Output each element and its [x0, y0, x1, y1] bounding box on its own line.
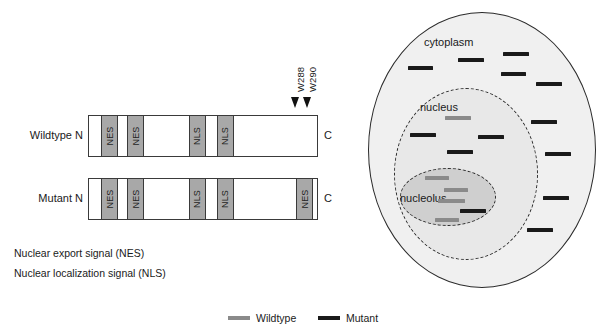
protein-marker-mutant: [478, 135, 504, 139]
n-terminus-label: N: [75, 192, 83, 204]
domain-label: NES: [105, 189, 115, 208]
protein-marker-mutant: [531, 120, 557, 124]
protein-marker-mutant: [458, 58, 484, 62]
residue-arrowhead-icon: [291, 97, 299, 108]
domain-block-nes: NES: [127, 116, 144, 156]
c-terminus-label: C: [324, 192, 332, 204]
domain-block-nes: NES: [101, 179, 118, 219]
cytoplasm-label: cytoplasm: [424, 36, 474, 48]
protein-marker-wildtype: [425, 176, 449, 180]
legend-label: Mutant: [346, 312, 378, 324]
key-line: Nuclear localization signal (NLS): [14, 267, 166, 279]
legend-label: Wildtype: [256, 312, 296, 324]
legend-item: Mutant: [318, 308, 378, 326]
domain-label: NES: [131, 126, 141, 145]
domain-block-nes: NES: [296, 179, 313, 219]
residue-label: W288: [295, 67, 306, 92]
domain-block-nls: NLS: [189, 179, 206, 219]
protein-marker-mutant: [501, 72, 526, 76]
residue-arrowhead-icon: [303, 97, 311, 108]
key-line: Nuclear export signal (NES): [14, 247, 166, 259]
legend-swatch-mutant: [318, 316, 340, 320]
protein-marker-mutant: [503, 52, 529, 56]
protein-marker-wildtype: [445, 116, 471, 120]
domain-label: NES: [300, 189, 310, 208]
domain-label: NLS: [193, 190, 203, 208]
protein-row-label: Wildtype: [10, 129, 72, 141]
protein-marker-mutant: [447, 150, 473, 154]
protein-marker-mutant: [408, 66, 433, 70]
protein-marker-wildtype: [435, 218, 459, 222]
domain-block-nls: NLS: [217, 179, 234, 219]
nucleus-label: nucleus: [420, 101, 458, 113]
domain-label: NES: [105, 126, 115, 145]
protein-bar: NESNESNLSNLSNES: [88, 178, 318, 220]
protein-marker-mutant: [543, 196, 569, 200]
c-terminus-label: C: [324, 129, 332, 141]
protein-bar: NESNESNLSNLS: [88, 115, 318, 157]
domain-label: NLS: [221, 190, 231, 208]
signal-key: Nuclear export signal (NES) Nuclear loca…: [14, 247, 166, 279]
domain-block-nes: NES: [101, 116, 118, 156]
protein-marker-wildtype: [438, 199, 465, 203]
domain-block-nes: NES: [127, 179, 144, 219]
protein-row-label: Mutant: [10, 192, 72, 204]
residue-label: W290: [307, 67, 318, 92]
figure-root: WildtypeNNESNESNLSNLSCMutantNNESNESNLSNL…: [0, 0, 603, 330]
domain-block-nls: NLS: [189, 116, 206, 156]
domain-block-nls: NLS: [217, 116, 234, 156]
protein-marker-mutant: [527, 228, 553, 232]
protein-marker-mutant: [545, 152, 571, 156]
protein-marker-mutant: [460, 209, 486, 213]
legend-item: Wildtype: [228, 308, 296, 326]
protein-marker-wildtype: [444, 188, 468, 192]
protein-marker-mutant: [536, 82, 562, 86]
n-terminus-label: N: [75, 129, 83, 141]
legend-swatch-wildtype: [228, 316, 250, 320]
protein-marker-mutant: [410, 133, 436, 137]
domain-label: NES: [131, 189, 141, 208]
domain-label: NLS: [221, 127, 231, 145]
domain-label: NLS: [193, 127, 203, 145]
